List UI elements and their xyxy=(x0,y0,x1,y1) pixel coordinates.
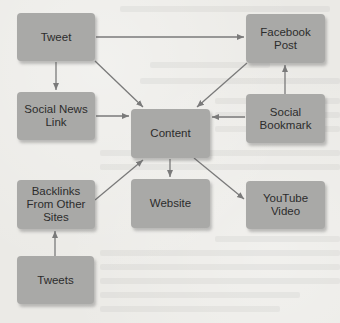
node-youtube-video-label: YouTube Video xyxy=(263,192,308,218)
node-youtube-video: YouTube Video xyxy=(246,181,325,229)
node-tweets-label: Tweets xyxy=(37,274,73,287)
node-social-bookmark-label: Social Bookmark xyxy=(260,106,312,132)
node-website: Website xyxy=(131,179,210,228)
node-social-news-link: Social News Link xyxy=(17,92,95,140)
node-facebook-post-label: Facebook Post xyxy=(260,26,311,52)
node-social-bookmark: Social Bookmark xyxy=(246,94,325,143)
node-tweet-label: Tweet xyxy=(41,31,72,44)
arrow-facebook-to-content xyxy=(197,63,247,107)
node-content: Content xyxy=(131,109,210,158)
node-tweet: Tweet xyxy=(17,13,95,61)
node-backlinks-label: Backlinks From Other Sites xyxy=(27,185,86,224)
node-social-news-link-label: Social News Link xyxy=(24,103,87,129)
arrow-tweet-to-content xyxy=(95,61,143,107)
node-backlinks: Backlinks From Other Sites xyxy=(17,180,95,229)
node-website-label: Website xyxy=(150,197,191,210)
node-tweets: Tweets xyxy=(17,256,94,304)
node-facebook-post: Facebook Post xyxy=(246,14,325,63)
node-content-label: Content xyxy=(150,127,190,140)
